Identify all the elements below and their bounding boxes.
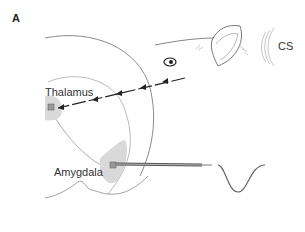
thalamus-label: Thalamus xyxy=(45,86,93,98)
waveform-icon xyxy=(218,165,265,192)
brain-lower-contour xyxy=(45,176,148,198)
ear-icon xyxy=(196,26,248,66)
amygdala-label: Amygdala xyxy=(54,166,103,178)
diagram-figure: A Thalamus Amygdala CS xyxy=(0,0,305,232)
arrowhead xyxy=(140,84,146,90)
amygdala-nucleus xyxy=(110,162,116,168)
electrode-icon xyxy=(116,164,212,165)
stimulus-label: CS xyxy=(278,40,293,52)
thalamus-nucleus xyxy=(48,104,54,110)
diagram-canvas xyxy=(0,0,305,232)
rat-head-outline xyxy=(155,38,215,45)
eye-icon xyxy=(164,58,176,66)
panel-label: A xyxy=(12,12,20,24)
sound-waves-icon xyxy=(262,28,275,66)
amygdala-region xyxy=(100,140,127,183)
